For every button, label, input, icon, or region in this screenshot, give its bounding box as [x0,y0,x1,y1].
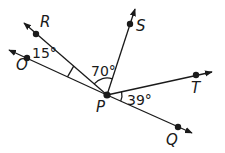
point-Q-dot [175,124,181,130]
label-R: R [40,15,50,30]
label-T: T [191,81,200,96]
label-P: P [96,100,105,115]
label-O: O [16,58,28,73]
angle-label-39: 39° [127,93,152,107]
angle-label-15: 15° [32,46,57,60]
point-T-dot [193,72,199,78]
label-Q: Q [166,133,178,148]
angle-label-70: 70° [91,64,116,78]
angle-arc-15 [68,66,74,77]
label-S: S [136,19,146,34]
point-S-dot [127,21,133,27]
point-R-dot [33,31,39,37]
angle-arc-39 [121,92,122,101]
